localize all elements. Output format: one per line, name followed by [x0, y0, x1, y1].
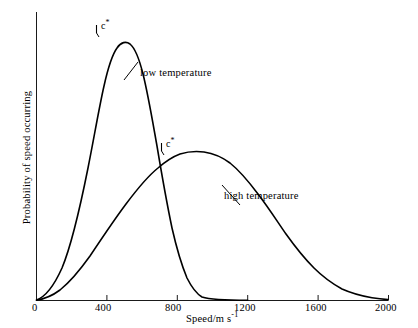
x-tick-label-800: 800 — [165, 303, 181, 314]
low-temp-peak-marker — [97, 25, 100, 37]
low-temperature-label: low temperature — [140, 68, 212, 79]
high-temp-peak-label: c* — [166, 137, 174, 149]
curve-high-temperature — [37, 152, 389, 301]
x-tick-label-1600: 1600 — [305, 303, 327, 314]
x-tick-label-0: 0 — [32, 303, 37, 314]
x-tick-label-400: 400 — [95, 303, 111, 314]
high-temp-peak-marker — [162, 143, 165, 155]
low-temp-peak-star: * — [105, 18, 109, 27]
x-axis-title-text: Speed/m s — [186, 313, 231, 324]
y-axis-title: Probability of speed occurring — [21, 68, 32, 248]
curve-low-temperature — [37, 42, 248, 300]
chart-canvas — [0, 0, 418, 328]
low-temp-peak-label: c* — [101, 19, 109, 31]
x-tick-label-1200: 1200 — [234, 303, 256, 314]
high-temp-peak-star: * — [170, 136, 174, 145]
x-axis-title: Speed/m s-1 — [186, 310, 238, 324]
low-temperature-leader-line — [124, 62, 138, 80]
x-tick-label-2000: 2000 — [375, 303, 397, 314]
maxwell-boltzmann-speed-distribution-chart: Probability of speed occurring Speed/m s… — [0, 0, 418, 328]
high-temperature-label: high temperature — [224, 191, 299, 202]
